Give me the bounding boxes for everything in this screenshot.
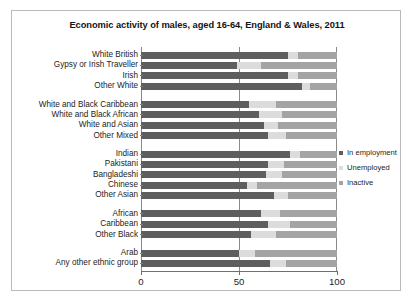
bar-segment-inactive (261, 62, 337, 69)
x-axis-tick (239, 271, 240, 275)
y-axis-label: Other Mixed (93, 132, 138, 140)
bar-segment-unemployed (239, 250, 255, 257)
bar-row (141, 192, 337, 199)
y-axis-label: Any other ethnic group (56, 259, 138, 267)
bar-segment-in-employment (141, 62, 237, 69)
bar-segment-unemployed (264, 122, 278, 129)
bar-segment-inactive (282, 171, 337, 178)
x-axis-tick (141, 271, 142, 275)
y-axis-label: Chinese (108, 181, 138, 189)
y-axis-label: White and Asian (79, 121, 138, 129)
bar-segment-inactive (300, 151, 337, 158)
bar-segment-unemployed (302, 83, 310, 90)
bar-segment-in-employment (141, 221, 268, 228)
y-axis-label: White British (92, 51, 138, 59)
bar-segment-in-employment (141, 111, 259, 118)
bar-row (141, 151, 337, 158)
y-axis-tick (140, 65, 143, 66)
bar-segment-in-employment (141, 231, 251, 238)
bar-row (141, 132, 337, 139)
bar-segment-unemployed (247, 182, 257, 189)
legend-item: Inactive (339, 177, 401, 192)
bar-row (141, 52, 337, 59)
y-axis-tick (140, 185, 143, 186)
bar-segment-in-employment (141, 171, 266, 178)
bar-segment-inactive (298, 72, 337, 79)
legend-label: Inactive (347, 177, 373, 188)
legend-swatch-unemployed (339, 166, 343, 170)
y-axis-label: Pakistani (105, 160, 138, 168)
bar-segment-in-employment (141, 72, 288, 79)
y-axis-label: Arab (121, 249, 138, 257)
bar-row (141, 182, 337, 189)
y-axis-label: African (113, 210, 138, 218)
y-axis-label: Other Asian (95, 191, 138, 199)
y-axis-tick (140, 125, 143, 126)
y-axis-tick (140, 154, 143, 155)
bar-segment-inactive (257, 182, 337, 189)
bar-segment-inactive (286, 132, 337, 139)
legend-swatch-inactive (339, 181, 343, 185)
bar-segment-unemployed (268, 132, 286, 139)
y-axis-label: Other Black (95, 231, 138, 239)
legend-item: In employment (339, 147, 401, 162)
bar-segment-unemployed (266, 171, 282, 178)
y-axis-label: White and Black African (52, 111, 138, 119)
bar-row (141, 111, 337, 118)
y-axis-category-labels: White BritishGypsy or Irish TravellerIri… (12, 47, 138, 269)
bar-row (141, 250, 337, 257)
y-axis-tick (140, 195, 143, 196)
bar-segment-unemployed (288, 72, 298, 79)
y-axis-tick (140, 86, 143, 87)
bar-row (141, 221, 337, 228)
bar-segment-in-employment (141, 151, 290, 158)
bar-segment-unemployed (274, 192, 288, 199)
legend-item: Unemployed (339, 162, 401, 177)
y-axis-label: Irish (123, 72, 138, 80)
chart-frame: Economic activity of males, aged 16-64, … (11, 10, 401, 291)
x-axis-tick-label: 0 (138, 276, 143, 287)
y-axis-tick (140, 213, 143, 214)
bar-row (141, 122, 337, 129)
bar-segment-in-employment (141, 122, 264, 129)
y-axis-label: Other White (94, 82, 138, 90)
bar-segment-unemployed (270, 260, 286, 267)
bar-segment-in-employment (141, 210, 261, 217)
bar-segment-in-employment (141, 192, 274, 199)
bar-segment-in-employment (141, 132, 268, 139)
bar-segment-in-employment (141, 260, 270, 267)
y-axis-tick (140, 263, 143, 264)
y-axis-tick (140, 224, 143, 225)
bar-segment-inactive (255, 250, 337, 257)
y-axis-tick (140, 253, 143, 254)
y-axis-tick (140, 174, 143, 175)
y-axis-tick (140, 104, 143, 105)
bar-segment-inactive (298, 52, 337, 59)
bar-row (141, 83, 337, 90)
legend-label: In employment (347, 147, 397, 158)
bar-segment-unemployed (237, 62, 261, 69)
bar-segment-inactive (276, 101, 337, 108)
chart-legend: In employmentUnemployedInactive (339, 147, 401, 192)
bar-segment-inactive (288, 192, 337, 199)
bar-segment-unemployed (268, 161, 284, 168)
plot-area (141, 47, 337, 271)
y-axis-tick (140, 114, 143, 115)
y-axis-tick (140, 55, 143, 56)
bar-segment-unemployed (249, 101, 276, 108)
legend-label: Unemployed (347, 162, 390, 173)
bar-segment-unemployed (251, 231, 276, 238)
y-axis-label: Gypsy or Irish Traveller (54, 61, 138, 69)
x-axis: 050100 (141, 271, 337, 273)
x-axis-tick (337, 271, 338, 275)
y-axis-label: White and Black Caribbean (39, 101, 138, 109)
bar-segment-inactive (290, 221, 337, 228)
bar-segment-in-employment (141, 182, 247, 189)
bar-segment-in-employment (141, 250, 239, 257)
bar-row (141, 260, 337, 267)
bar-segment-unemployed (290, 151, 300, 158)
bar-segment-inactive (280, 210, 337, 217)
bar-segment-in-employment (141, 52, 288, 59)
y-axis-label: Indian (116, 150, 138, 158)
bar-row (141, 210, 337, 217)
